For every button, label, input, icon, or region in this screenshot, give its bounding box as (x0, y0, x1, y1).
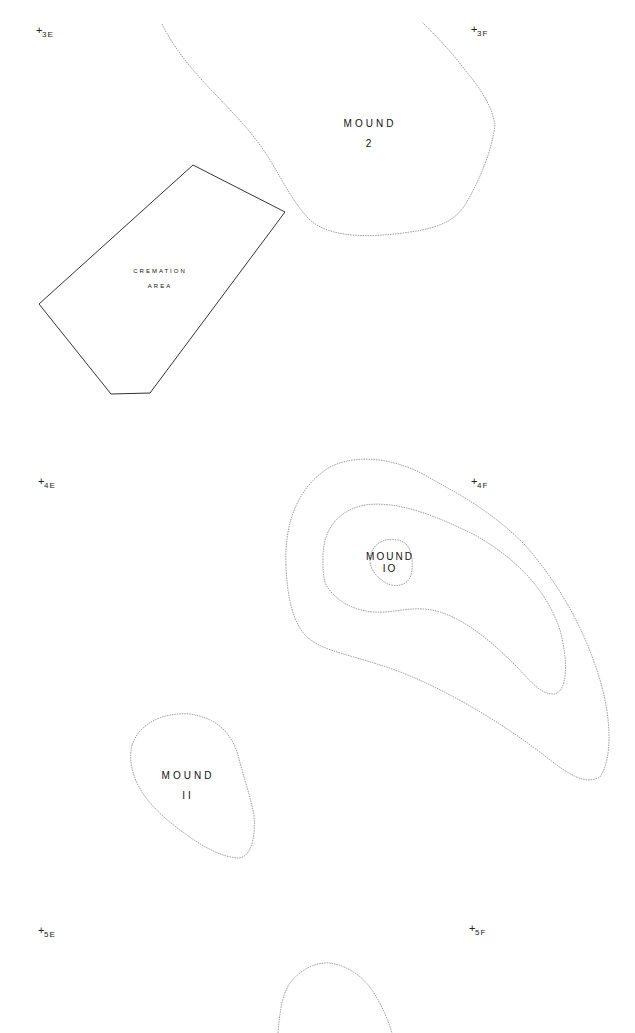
mound-10-middle-contour (323, 504, 566, 694)
site-map (0, 0, 635, 1033)
grid-marker-label: 4E (44, 481, 56, 490)
grid-marker-label: 5E (44, 930, 56, 939)
mound-10-label: MOUND IO (350, 551, 430, 574)
mound-10-outer-contour (286, 459, 609, 780)
cremation-area-label-line2: AREA (120, 283, 200, 289)
grid-marker-label: 4F (477, 481, 488, 490)
mound-2-label-line1: MOUND (330, 118, 410, 129)
cremation-area-label-line1: CREMATION (120, 268, 200, 274)
mound-11-label: MOUND II (148, 770, 228, 801)
partial-mound-outline (278, 963, 392, 1033)
mound-2-label: MOUND 2 (330, 118, 410, 149)
mound-10-label-line2: IO (350, 563, 430, 574)
mound-10-label-line1: MOUND (350, 551, 430, 562)
cremation-area-label: CREMATION AREA (120, 268, 200, 289)
grid-marker-label: 3E (42, 30, 54, 39)
mound-11-label-line2: II (148, 790, 228, 801)
grid-marker-label: 3F (477, 29, 488, 38)
mound-11-label-line1: MOUND (148, 770, 228, 781)
grid-marker-label: 5F (475, 928, 486, 937)
mound-2-outline (162, 22, 495, 236)
mound-2-label-line2: 2 (330, 138, 410, 149)
